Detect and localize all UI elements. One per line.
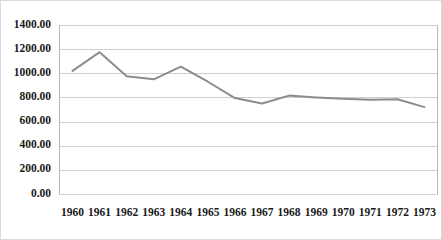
x-axis-tick-label: 1972 <box>386 206 409 218</box>
x-axis-tick-label: 1973 <box>413 206 436 218</box>
y-axis-tick-label: 1200.00 <box>14 42 52 54</box>
x-axis-tick-label: 1971 <box>359 206 382 218</box>
y-axis-tick-label: 1400.00 <box>14 18 52 30</box>
series-line-series-1 <box>73 52 425 107</box>
y-axis-tick-label: 1000.00 <box>14 66 52 78</box>
x-axis-tick-label: 1968 <box>278 206 301 218</box>
gridlines <box>59 26 438 195</box>
data-series <box>73 52 425 107</box>
y-axis-tick-label: 400.00 <box>19 138 51 150</box>
x-axis-tick-label: 1962 <box>115 206 138 218</box>
x-axis-tick-label: 1960 <box>61 206 84 218</box>
plot-area-border <box>60 25 438 194</box>
chart-container: 0.00200.00400.00600.00800.001000.001200.… <box>0 0 442 240</box>
y-axis-tick-labels: 0.00200.00400.00600.00800.001000.001200.… <box>14 18 52 199</box>
x-axis-tick-labels: 1960196119621963196419651966196719681969… <box>61 206 436 218</box>
y-axis-tick-label: 200.00 <box>19 162 51 174</box>
x-axis-tick-label: 1966 <box>223 206 246 218</box>
x-axis-tick-label: 1963 <box>142 206 165 218</box>
x-axis-tick-label: 1970 <box>332 206 355 218</box>
x-axis-tick-label: 1969 <box>305 206 328 218</box>
x-axis-tick-label: 1961 <box>88 206 111 218</box>
line-chart: 0.00200.00400.00600.00800.001000.001200.… <box>1 1 442 240</box>
x-axis-tick-label: 1967 <box>251 206 274 218</box>
x-axis-tick-label: 1964 <box>169 206 192 218</box>
x-axis-tick-label: 1965 <box>196 206 219 218</box>
y-axis-tick-label: 800.00 <box>19 90 51 102</box>
y-axis-tick-label: 600.00 <box>19 114 51 126</box>
y-axis-tick-label: 0.00 <box>31 187 51 199</box>
